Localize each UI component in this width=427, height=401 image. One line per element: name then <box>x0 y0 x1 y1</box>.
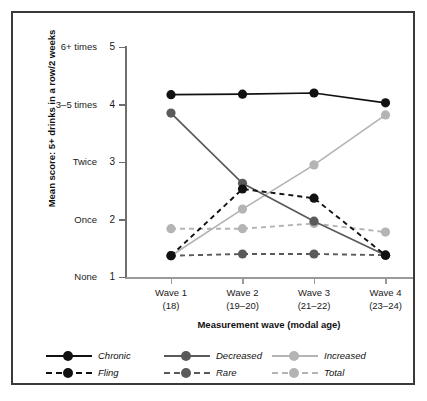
legend-marker-rare <box>181 368 191 378</box>
data-point-fling-w2 <box>238 184 247 193</box>
x-tick-label-age: (21–22) <box>279 300 349 313</box>
x-tick-label-age: (23–24) <box>351 300 421 313</box>
plot-area <box>125 47 409 277</box>
data-point-total-w4 <box>381 228 390 237</box>
y-tick-label-5: 5 <box>101 42 115 52</box>
legend-marker-increased <box>289 351 299 361</box>
data-point-chronic-w4 <box>381 98 390 107</box>
chart-legend: ChronicDecreasedIncreasedFlingRareTotal <box>46 349 376 383</box>
data-point-chronic-w1 <box>166 90 175 99</box>
data-point-chronic-w2 <box>238 90 247 99</box>
series-increased <box>166 110 390 260</box>
data-point-chronic-w3 <box>309 88 318 97</box>
legend-marker-decreased <box>181 351 191 361</box>
x-tick-label-wave: Wave 1 <box>136 287 206 300</box>
data-point-total-w1 <box>166 224 175 233</box>
series-line-rare <box>171 254 386 256</box>
series-line-total <box>171 224 386 233</box>
y-tick-label-2: 2 <box>101 215 115 225</box>
data-point-rare-w3 <box>309 249 318 258</box>
data-point-fling-w1 <box>166 251 175 260</box>
series-line-chronic <box>171 93 386 103</box>
data-point-decreased-w3 <box>309 217 318 226</box>
y-tick-label-4: 4 <box>101 100 115 110</box>
x-tick-label-age: (18) <box>136 300 206 313</box>
x-tick-1 <box>171 278 173 284</box>
legend-marker-total <box>289 368 299 378</box>
x-tick-label-wave: Wave 3 <box>279 287 349 300</box>
legend-label-decreased: Decreased <box>216 349 262 363</box>
y-tick-label-3: 3 <box>101 157 115 167</box>
series-line-increased <box>171 115 386 256</box>
legend-label-rare: Rare <box>216 366 237 380</box>
data-point-fling-w4 <box>381 251 390 260</box>
x-tick-label-2: Wave 2(19–20) <box>208 287 278 312</box>
x-tick-label-1: Wave 1(18) <box>136 287 206 312</box>
data-point-rare-w2 <box>238 249 247 258</box>
x-tick-label-wave: Wave 2 <box>208 287 278 300</box>
figure-canvas: Mean score: 5+ drinks in a row/2 weeks 1… <box>0 0 427 401</box>
legend-label-chronic: Chronic <box>98 349 131 363</box>
y-category-label-6-times: 6+ times <box>13 42 97 52</box>
x-tick-label-4: Wave 4(23–24) <box>351 287 421 312</box>
y-category-label-once: Once <box>13 215 97 225</box>
x-tick-label-age: (19–20) <box>208 300 278 313</box>
legend-label-total: Total <box>324 366 344 380</box>
legend-marker-fling <box>63 368 73 378</box>
data-point-total-w2 <box>238 224 247 233</box>
series-chronic <box>166 88 390 107</box>
data-point-increased-w3 <box>309 160 318 169</box>
x-tick-2 <box>242 278 244 284</box>
series-fling <box>166 184 390 260</box>
legend-label-increased: Increased <box>324 349 366 363</box>
x-tick-label-wave: Wave 4 <box>351 287 421 300</box>
data-point-fling-w3 <box>309 194 318 203</box>
series-layer <box>125 47 409 277</box>
x-tick-4 <box>385 278 387 284</box>
x-axis-line <box>125 277 413 279</box>
y-category-label-3-5-times: 3–5 times <box>13 100 97 110</box>
y-tick-label-1: 1 <box>101 272 115 282</box>
data-point-increased-w4 <box>381 110 390 119</box>
y-category-label-none: None <box>13 272 97 282</box>
legend-label-fling: Fling <box>98 366 119 380</box>
y-category-label-twice: Twice <box>13 157 97 167</box>
series-rare <box>166 249 390 260</box>
figure-border: Mean score: 5+ drinks in a row/2 weeks 1… <box>11 11 415 385</box>
data-point-increased-w2 <box>238 205 247 214</box>
series-line-fling <box>171 189 386 256</box>
data-point-decreased-w1 <box>166 109 175 118</box>
x-axis-title: Measurement wave (modal age) <box>125 319 413 330</box>
legend-marker-chronic <box>63 351 73 361</box>
x-tick-label-3: Wave 3(21–22) <box>279 287 349 312</box>
x-tick-3 <box>314 278 316 284</box>
